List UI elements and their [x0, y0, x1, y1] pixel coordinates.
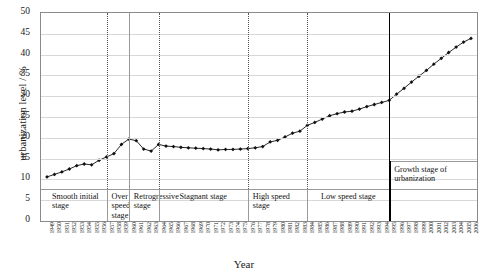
x-tick-1958: 1958 — [116, 222, 122, 234]
series-line — [47, 38, 471, 177]
stage-label-text: Over speed stage — [112, 192, 124, 220]
x-tick-1952: 1952 — [71, 222, 77, 234]
stage-label-0: Smooth initial stage — [49, 190, 105, 213]
x-tick-1961: 1961 — [138, 222, 144, 234]
data-point-1949 — [45, 175, 49, 179]
stage-label-6: Growth stage of urbanization — [391, 163, 475, 186]
x-tick-1956: 1956 — [101, 222, 107, 234]
data-point-1966 — [172, 145, 176, 149]
data-point-1994 — [380, 101, 384, 105]
x-tick-1979: 1979 — [272, 222, 278, 234]
x-tick-1981: 1981 — [287, 222, 293, 234]
x-tick-1980: 1980 — [280, 222, 286, 234]
x-tick-2000: 2000 — [428, 222, 434, 234]
x-tick-1968: 1968 — [190, 222, 196, 234]
y-tick-45: 45 — [0, 28, 30, 38]
x-tick-1951: 1951 — [64, 222, 70, 234]
stage-box-separator-1960 — [129, 189, 130, 221]
x-tick-1950: 1950 — [56, 222, 62, 234]
stage-label-4: High speed stage — [250, 190, 306, 213]
x-tick-2002: 2002 — [443, 222, 449, 234]
x-tick-2004: 2004 — [458, 222, 464, 234]
x-tick-1971: 1971 — [213, 222, 219, 234]
x-tick-1962: 1962 — [146, 222, 152, 234]
x-tick-1998: 1998 — [413, 222, 419, 234]
data-point-1951 — [60, 170, 64, 174]
data-point-1990 — [350, 109, 354, 113]
data-point-1950 — [53, 173, 57, 177]
x-tick-1957: 1957 — [109, 222, 115, 234]
data-point-1989 — [343, 110, 347, 114]
x-tick-1954: 1954 — [86, 222, 92, 234]
plot-area: Smooth initial stageOver speed stageRetr… — [40, 12, 478, 222]
x-tick-1983: 1983 — [302, 222, 308, 234]
y-tick-50: 50 — [0, 7, 30, 17]
x-tick-1993: 1993 — [376, 222, 382, 234]
stage-box-separator-1964 — [159, 189, 160, 221]
data-point-1952 — [67, 167, 71, 171]
x-axis-tick-labels: 1949195019511952195319541955195619571958… — [40, 222, 478, 256]
x-tick-1996: 1996 — [399, 222, 405, 234]
x-tick-1992: 1992 — [369, 222, 375, 234]
x-tick-1955: 1955 — [94, 222, 100, 234]
y-tick-0: 0 — [0, 215, 30, 225]
data-point-1971 — [209, 147, 213, 151]
x-tick-1984: 1984 — [309, 222, 315, 234]
x-tick-1988: 1988 — [339, 222, 345, 234]
x-tick-1977: 1977 — [257, 222, 263, 234]
stage-label-text: Retrogressive stage — [134, 192, 154, 211]
data-point-1985 — [313, 121, 317, 125]
stage-box-separator-1957 — [107, 189, 108, 221]
x-tick-1978: 1978 — [265, 222, 271, 234]
x-tick-2001: 2001 — [436, 222, 442, 234]
data-point-1972 — [216, 148, 220, 152]
x-tick-1960: 1960 — [131, 222, 137, 234]
data-point-1968 — [186, 146, 190, 150]
x-tick-1966: 1966 — [175, 222, 181, 234]
x-tick-1987: 1987 — [332, 222, 338, 234]
x-tick-1995: 1995 — [391, 222, 397, 234]
data-point-1993 — [372, 103, 376, 107]
data-point-1982 — [291, 131, 295, 135]
growth-band-rule — [389, 161, 477, 162]
data-point-1953 — [75, 164, 79, 168]
stage-label-text: Growth stage of urbanization — [394, 165, 472, 184]
x-tick-1965: 1965 — [168, 222, 174, 234]
data-point-1977 — [253, 146, 257, 150]
x-tick-1972: 1972 — [220, 222, 226, 234]
data-point-1967 — [179, 145, 183, 149]
data-point-1965 — [164, 144, 168, 148]
x-tick-1949: 1949 — [49, 222, 55, 234]
stage-label-3: Stagnant stage — [161, 190, 246, 203]
x-tick-2005: 2005 — [466, 222, 472, 234]
chart-root: urbanization level / % 50454035302520151… — [0, 0, 488, 278]
x-tick-1997: 1997 — [406, 222, 412, 234]
data-point-1969 — [194, 146, 198, 150]
data-point-1991 — [358, 107, 362, 111]
x-tick-1974: 1974 — [235, 222, 241, 234]
data-point-2006 — [469, 36, 473, 40]
x-tick-1976: 1976 — [250, 222, 256, 234]
y-tick-40: 40 — [0, 49, 30, 59]
x-tick-1982: 1982 — [294, 222, 300, 234]
stage-label-text: Low speed stage — [312, 192, 384, 201]
y-tick-30: 30 — [0, 90, 30, 100]
y-tick-25: 25 — [0, 111, 30, 121]
stage-label-2: Retrogressive stage — [131, 190, 157, 213]
x-tick-1994: 1994 — [384, 222, 390, 234]
x-tick-1969: 1969 — [198, 222, 204, 234]
x-tick-1999: 1999 — [421, 222, 427, 234]
x-axis-title: Year — [0, 258, 488, 270]
data-point-1974 — [231, 148, 235, 152]
y-tick-5: 5 — [0, 194, 30, 204]
y-axis-tick-labels: 50454035302520151050 — [0, 0, 38, 222]
stage-label-1: Over speed stage — [109, 190, 127, 222]
stage-box-separator-1984 — [307, 189, 308, 221]
x-tick-1964: 1964 — [161, 222, 167, 234]
data-point-1954 — [82, 162, 86, 166]
x-tick-2006: 2006 — [473, 222, 479, 234]
x-tick-1985: 1985 — [317, 222, 323, 234]
x-tick-1986: 1986 — [324, 222, 330, 234]
data-point-1973 — [224, 148, 228, 152]
x-tick-1975: 1975 — [242, 222, 248, 234]
